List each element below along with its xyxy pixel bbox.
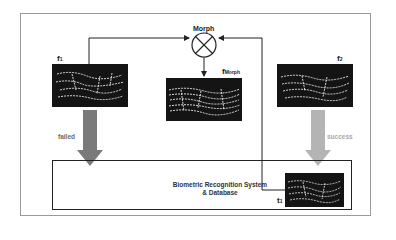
failed-arrow-icon <box>77 110 103 166</box>
f-morph-label: fMorph <box>222 67 240 76</box>
success-label: success <box>327 133 353 140</box>
f-morph-vein-image <box>166 78 242 121</box>
morph-operator-icon <box>192 33 216 57</box>
t1-label: t1 <box>277 196 282 205</box>
t1-vein-image <box>285 173 344 207</box>
biometric-system-label: Biometric Recognition System & Database <box>150 181 290 197</box>
f2-vein-image <box>277 64 353 107</box>
failed-label: failed <box>58 133 75 140</box>
f1-label: f1 <box>57 54 62 63</box>
f1-vein-image <box>52 64 128 107</box>
f2-label: f2 <box>337 54 342 63</box>
morph-label: Morph <box>193 25 214 32</box>
